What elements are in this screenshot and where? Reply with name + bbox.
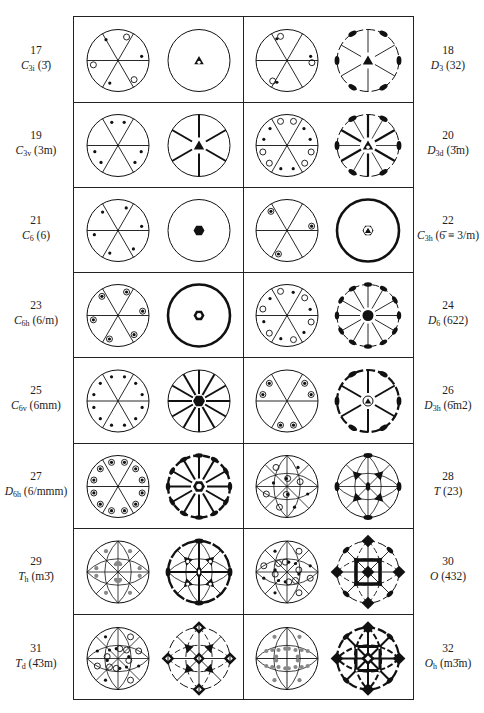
group-label-30: 30O (432): [412, 554, 484, 587]
group-symbol: D6h (6/mmm): [0, 484, 72, 502]
symmetry-elements-stereogram: [162, 621, 237, 696]
group-number: 21: [0, 213, 72, 228]
point-group-cell-30: [243, 528, 413, 614]
symmetry-elements-stereogram: [168, 115, 230, 177]
point-group-cell-19: [74, 102, 243, 187]
group-number: 29: [0, 554, 72, 569]
point-group-cell-18: [243, 17, 413, 102]
stereogram-pair: [74, 357, 244, 443]
group-label-18: 18D3 (32): [412, 43, 484, 76]
group-label-29: 29Th (m3̄): [0, 554, 72, 587]
group-number: 31: [0, 641, 72, 656]
symmetry-elements-stereogram: [337, 200, 399, 262]
stereogram-pair: [243, 614, 413, 701]
group-symbol: D3h (6̄m2): [412, 398, 484, 416]
point-group-cell-22: [243, 187, 413, 272]
symmetry-elements-stereogram: [168, 370, 230, 432]
symmetry-elements-stereogram: [335, 370, 402, 432]
stereogram-pair: [74, 528, 244, 614]
group-number: 23: [0, 298, 72, 313]
group-number: 28: [412, 469, 484, 484]
group-label-17: 17C3i (3̄): [0, 43, 72, 76]
general-position-stereogram: [256, 285, 318, 347]
point-group-cell-28: [243, 443, 413, 528]
symmetry-elements-stereogram: [335, 29, 402, 91]
group-number: 20: [412, 128, 484, 143]
point-group-cell-26: [243, 357, 413, 443]
group-label-23: 23C6h (6/m): [0, 298, 72, 331]
stereogram-pair: [243, 187, 413, 272]
stereogram-pair: [74, 102, 244, 187]
group-label-21: 21C6 (6): [0, 213, 72, 246]
general-position-stereogram: [256, 115, 318, 177]
symmetry-elements-stereogram: [168, 200, 230, 262]
stereogram-pair: [74, 443, 244, 528]
general-position-stereogram: [87, 200, 149, 262]
general-position-stereogram: [87, 115, 149, 177]
group-number: 30: [412, 554, 484, 569]
point-group-cell-29: [74, 528, 243, 614]
symmetry-elements-stereogram: [168, 30, 230, 92]
group-symbol: D3d (3̄m): [412, 143, 484, 161]
group-number: 17: [0, 43, 72, 58]
symmetry-elements-stereogram: [331, 621, 406, 696]
group-symbol: C3i (3̄): [0, 58, 72, 76]
group-label-26: 26D3h (6̄m2): [412, 383, 484, 416]
group-symbol: C6v (6mm): [0, 398, 72, 416]
general-position-stereogram: [256, 456, 318, 518]
point-group-cell-21: [74, 187, 243, 272]
point-group-cell-25: [74, 357, 243, 443]
group-label-19: 19C3v (3m): [0, 128, 72, 161]
group-symbol: D6 (622): [412, 313, 484, 331]
stereogram-pair: [243, 17, 413, 102]
symmetry-elements-stereogram: [331, 535, 406, 610]
general-position-stereogram: [256, 541, 318, 603]
group-label-32: 32Oh (m3̄m): [412, 641, 484, 674]
stereogram-pair: [74, 614, 244, 701]
symmetry-elements-stereogram: [168, 285, 230, 347]
point-group-cell-20: [243, 102, 413, 187]
symmetry-elements-stereogram: [335, 114, 402, 176]
point-group-cell-23: [74, 272, 243, 357]
symmetry-elements-stereogram: [335, 453, 402, 520]
group-number: 25: [0, 383, 72, 398]
general-position-stereogram: [87, 456, 149, 518]
point-group-cell-31: [74, 614, 243, 701]
point-group-cell-32: [243, 614, 413, 701]
symmetry-elements-stereogram: [166, 539, 233, 606]
group-number: 26: [412, 383, 484, 398]
group-label-27: 27D6h (6/mmm): [0, 469, 72, 502]
group-number: 22: [412, 213, 484, 228]
group-symbol: Td (4̄3m): [0, 656, 72, 674]
group-symbol: O (432): [412, 569, 484, 587]
symmetry-elements-stereogram: [335, 282, 401, 348]
stereogram-pair: [243, 357, 413, 443]
stereogram-pair: [243, 528, 413, 614]
group-symbol: Th (m3̄): [0, 569, 72, 587]
general-position-stereogram: [87, 30, 149, 92]
point-group-cell-17: [74, 17, 243, 102]
group-label-20: 20D3d (3̄m): [412, 128, 484, 161]
group-number: 27: [0, 469, 72, 484]
symmetry-elements-stereogram: [166, 453, 232, 519]
group-number: 18: [412, 43, 484, 58]
general-position-stereogram: [256, 30, 318, 92]
point-group-cell-24: [243, 272, 413, 357]
group-label-28: 28T (23): [412, 469, 484, 502]
group-number: 32: [412, 641, 484, 656]
group-label-24: 24D6 (622): [412, 298, 484, 331]
stereogram-pair: [243, 272, 413, 357]
group-number: 24: [412, 298, 484, 313]
point-group-cell-27: [74, 443, 243, 528]
group-symbol: C6 (6): [0, 228, 72, 246]
stereogram-pair: [243, 102, 413, 187]
group-symbol: T (23): [412, 484, 484, 502]
general-position-stereogram: [256, 370, 318, 432]
general-position-stereogram: [87, 370, 149, 432]
group-label-22: 22C3h (6̄ ≡ 3/m): [412, 213, 484, 246]
group-symbol: Oh (m3̄m): [412, 656, 484, 674]
stereogram-pair: [74, 272, 244, 357]
group-symbol: C3h (6̄ ≡ 3/m): [412, 228, 484, 246]
general-position-stereogram: [87, 628, 149, 690]
general-position-stereogram: [87, 541, 149, 603]
